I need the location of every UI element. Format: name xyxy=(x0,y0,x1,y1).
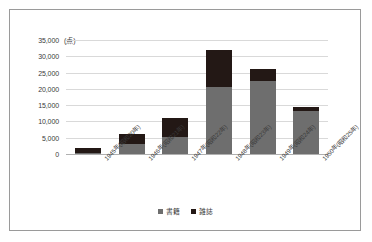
y-axis-tick-label: 10,000 xyxy=(38,118,59,125)
y-axis-tick-label: 0 xyxy=(55,151,59,158)
y-axis-tick-label: 35,000 xyxy=(38,37,59,44)
bar-segment-magazines[interactable] xyxy=(250,69,276,81)
legend-label: 雑誌 xyxy=(199,206,213,216)
x-axis-tick-label: 1945年(昭和20年) xyxy=(102,156,108,162)
x-axis-tick-label: 1947年(昭和22年) xyxy=(189,156,195,162)
y-axis-tick-label: 30,000 xyxy=(38,53,59,60)
y-axis-tick-label: 5,000 xyxy=(42,134,59,141)
x-axis-tick-label: 1948年(昭和23年) xyxy=(233,156,239,162)
chart-frame: (点) 05,00010,00015,00020,00025,00030,000… xyxy=(9,9,361,231)
legend-swatch-icon xyxy=(191,209,196,214)
y-axis-tick-label: 20,000 xyxy=(38,85,59,92)
legend-label: 書籍 xyxy=(166,206,180,216)
x-axis-tick-label: 1950年(昭和25年) xyxy=(320,156,326,162)
legend-item[interactable]: 書籍 xyxy=(158,206,180,216)
bar-segment-magazines[interactable] xyxy=(293,107,319,111)
y-axis-tick-label: 15,000 xyxy=(38,102,59,109)
bar-series-container xyxy=(66,40,328,154)
x-axis: 1945年(昭和20年)1946年(昭和21年)1947年(昭和22年)1948… xyxy=(66,154,328,212)
y-axis-tick-label: 25,000 xyxy=(38,69,59,76)
x-axis-tick-label: 1949年(昭和24年) xyxy=(277,156,283,162)
legend-item[interactable]: 雑誌 xyxy=(191,206,213,216)
bar-segment-magazines[interactable] xyxy=(206,50,232,87)
plot-area xyxy=(66,40,328,154)
chart-legend: 書籍雑誌 xyxy=(10,206,360,216)
legend-swatch-icon xyxy=(158,209,163,214)
bar-segment-magazines[interactable] xyxy=(75,148,101,154)
y-axis: 05,00010,00015,00020,00025,00030,00035,0… xyxy=(10,40,62,154)
x-axis-tick-label: 1946年(昭和21年) xyxy=(146,156,152,162)
